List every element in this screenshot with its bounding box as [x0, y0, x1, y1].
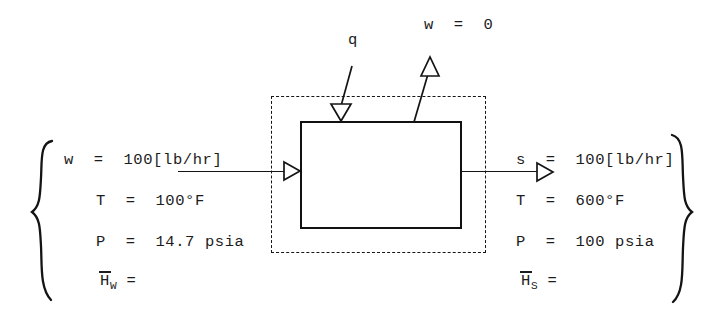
outlet-enthalpy-subscript: S	[531, 280, 538, 292]
outlet-flow-line	[462, 171, 542, 172]
outlet-enthalpy-label: HS=	[521, 274, 558, 292]
outlet-temperature-label: T = 600°F	[516, 194, 625, 210]
heat-label: q	[348, 33, 358, 49]
outlet-enthalpy-equals: =	[548, 272, 558, 290]
diagram-canvas: q w = 0 w = 100[lb/hr] T = 100°F P = 14.…	[0, 0, 725, 328]
outlet-flow-label: s = 100[lb/hr]	[516, 153, 674, 169]
inlet-flow-line	[178, 171, 290, 172]
inlet-enthalpy-symbol: H	[100, 274, 110, 290]
work-label: w = 0	[424, 18, 493, 34]
work-arrowhead	[421, 57, 439, 76]
inlet-enthalpy-equals: =	[127, 272, 137, 290]
outlet-pressure-label: P = 100 psia	[516, 235, 655, 251]
inlet-temperature-label: T = 100°F	[96, 194, 205, 210]
inlet-enthalpy-label: HW=	[100, 274, 137, 292]
outlet-enthalpy-symbol: H	[521, 274, 531, 290]
inlet-pressure-label: P = 14.7 psia	[96, 235, 245, 251]
process-box	[300, 121, 462, 229]
inlet-flow-label: w = 100[lb/hr]	[64, 153, 222, 169]
left-brace	[32, 141, 52, 300]
inlet-enthalpy-subscript: W	[110, 280, 117, 292]
right-brace	[672, 135, 692, 302]
